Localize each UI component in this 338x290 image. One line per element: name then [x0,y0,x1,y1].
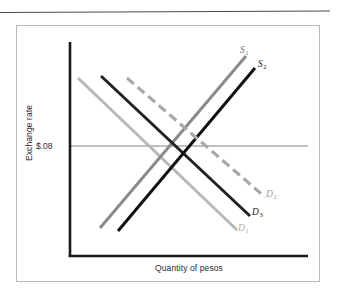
curve-label-d1: D1 [238,224,248,234]
curve-label-s2-sub: 2 [263,63,266,70]
curve-label-s1: S1 [240,46,248,56]
curve-label-d2: D2 [266,190,276,200]
curve-label-d3: D3 [252,208,262,218]
demand-curve-d2 [127,78,265,197]
supply-curve-s2 [118,68,255,231]
curve-label-d2-sub: 2 [273,193,276,200]
y-axis-label: Exchange rate [24,88,34,178]
curve-label-d3-sub: 3 [259,211,262,218]
curve-label-d3-base: D [252,207,259,217]
curve-label-d1-sub: 1 [245,227,248,234]
curve-label-d2-base: D [266,189,273,199]
curve-label-s2: S2 [258,60,266,70]
curve-label-d1-base: D [238,223,245,233]
y-axis-tick-label: $.08 [36,141,53,151]
curve-label-s1-sub: 1 [245,49,248,56]
x-axis-label: Quantity of pesos [70,263,308,273]
